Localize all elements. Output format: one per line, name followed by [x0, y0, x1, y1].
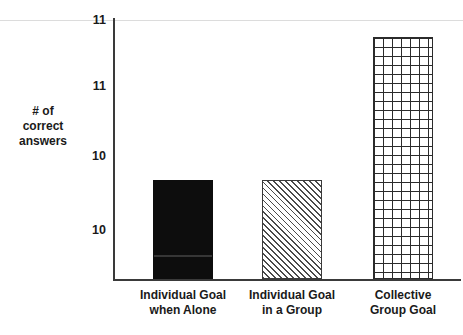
y-tick-wrap-2: 10 [58, 149, 106, 163]
bar-individual-goal-when-alone [153, 180, 213, 279]
bar-collective-group-goal [373, 37, 433, 279]
x-axis-label-1-line-2: in a Group [237, 303, 347, 318]
x-axis-label-1-line-1: Individual Goal [237, 288, 347, 303]
y-axis-tick-label-3: 10 [58, 223, 106, 237]
y-axis-title: # of correct answers [8, 104, 78, 149]
y-axis-line [113, 18, 115, 280]
x-axis-line [113, 279, 461, 281]
x-axis-label-0-line-1: Individual Goal [128, 288, 238, 303]
y-axis-title-line-2: correct [8, 119, 78, 134]
y-axis-title-line-1: # of [8, 104, 78, 119]
y-axis-tick-label-2: 10 [58, 149, 106, 163]
x-axis-label-0-line-2: when Alone [128, 303, 238, 318]
y-tick-wrap-0: 11 [58, 13, 106, 27]
y-axis-tick-label-1: 11 [58, 79, 106, 93]
y-axis-title-line-3: answers [8, 134, 78, 149]
bar-individual-goal-in-a-group [262, 180, 322, 279]
y-tick-wrap-3: 10 [58, 223, 106, 237]
x-axis-label-individual-goal-in-a-group: Individual Goal in a Group [237, 288, 347, 317]
y-tick-wrap-1: 11 [58, 79, 106, 93]
x-axis-label-2-line-1: Collective [348, 288, 458, 303]
bar-chart: # of correct answers 11 11 10 10 Individ… [0, 0, 463, 335]
y-axis-tick-label-0: 11 [58, 13, 106, 27]
x-axis-label-individual-goal-when-alone: Individual Goal when Alone [128, 288, 238, 317]
x-axis-label-2-line-2: Group Goal [348, 303, 458, 318]
x-axis-label-collective-group-goal: Collective Group Goal [348, 288, 458, 317]
scan-artifact [154, 255, 212, 257]
